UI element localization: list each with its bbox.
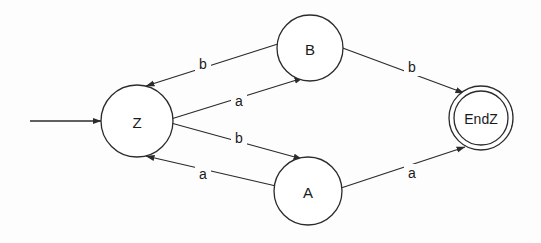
state-node-a[interactable]: A xyxy=(274,157,342,225)
transition-line xyxy=(341,147,465,188)
transition-symbol-label: a xyxy=(199,166,207,182)
state-label: A xyxy=(303,184,313,201)
transition-symbol-label: a xyxy=(408,165,416,181)
transition-line xyxy=(146,43,281,86)
transition-symbol-label: b xyxy=(199,56,207,72)
state-label: EndZ xyxy=(464,111,498,127)
transition-line xyxy=(340,47,464,93)
state-machine-diagram: bababa ZBAEndZ xyxy=(0,0,541,243)
transition-z-to-b[interactable]: a xyxy=(171,78,303,119)
states-group: ZBAEndZ xyxy=(101,15,513,225)
transition-symbol-label: a xyxy=(235,93,243,109)
state-node-endz[interactable]: EndZ xyxy=(449,86,513,150)
transition-b-to-endz[interactable]: b xyxy=(340,47,464,93)
state-label: Z xyxy=(132,114,141,131)
transition-symbol-label: b xyxy=(235,130,243,146)
transition-a-to-endz[interactable]: a xyxy=(341,147,465,188)
state-node-b[interactable]: B xyxy=(277,15,343,81)
transition-z-to-a[interactable]: b xyxy=(171,123,302,159)
transition-symbol-label: b xyxy=(408,59,416,75)
transition-b-to-z[interactable]: b xyxy=(146,43,281,86)
state-node-z[interactable]: Z xyxy=(101,85,173,157)
transition-a-to-z[interactable]: a xyxy=(146,156,276,186)
fsm-canvas: bababa ZBAEndZ xyxy=(0,0,541,243)
state-label: B xyxy=(305,41,315,58)
